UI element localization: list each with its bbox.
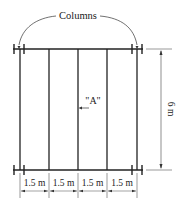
columns-leader-left [19, 16, 56, 45]
spacing-label-2: 1.5 m [53, 178, 75, 188]
floor-framing-diagram: Columns "A" 6 m [0, 0, 183, 213]
joists [20, 49, 137, 170]
spacing-label-3: 1.5 m [82, 178, 104, 188]
height-arrow-top [160, 50, 163, 55]
panel-a-arrowhead [79, 107, 83, 110]
panel-a-label: "A" [85, 95, 100, 106]
columns-label: Columns [59, 10, 97, 21]
spacing-label-1: 1.5 m [24, 178, 46, 188]
height-arrow-bottom [160, 164, 163, 169]
columns-leader-right [100, 16, 137, 45]
height-dimension-label: 6 m [166, 102, 176, 117]
spacing-label-4: 1.5 m [111, 178, 133, 188]
